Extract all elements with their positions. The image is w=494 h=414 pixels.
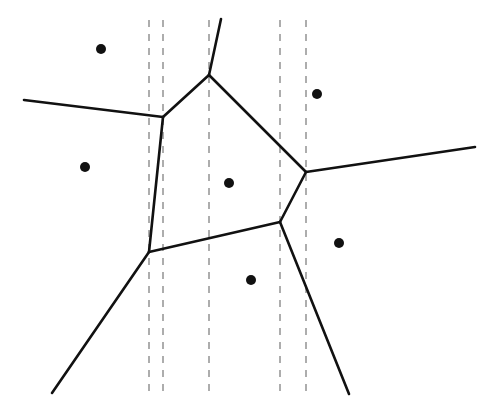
site-point-1: [312, 89, 322, 99]
site-point-0: [96, 44, 106, 54]
voronoi-edge-2: [209, 75, 306, 172]
site-point-5: [246, 275, 256, 285]
voronoi-edge-4: [149, 117, 163, 252]
voronoi-edges: [24, 19, 475, 394]
site-point-2: [80, 162, 90, 172]
site-point-3: [224, 178, 234, 188]
vertical-dashed-lines: [149, 20, 306, 394]
voronoi-sites: [80, 44, 344, 285]
voronoi-diagram: [0, 0, 494, 414]
voronoi-edge-1: [163, 75, 209, 117]
voronoi-edge-3: [24, 100, 163, 117]
voronoi-edge-0: [209, 19, 221, 75]
voronoi-edge-8: [52, 252, 149, 393]
voronoi-edge-5: [306, 147, 475, 172]
voronoi-edge-7: [149, 222, 280, 252]
voronoi-edge-6: [280, 172, 306, 222]
site-point-4: [334, 238, 344, 248]
